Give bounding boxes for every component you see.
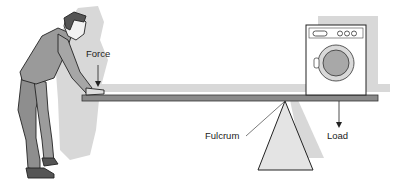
lever-illustration [0,0,400,189]
load-arrow-icon [336,101,342,128]
force-label: Force [86,48,110,59]
washing-machine-icon [306,25,366,95]
fulcrum-label: Fulcrum [205,130,239,141]
load-label: Load [327,130,348,141]
plank [82,95,378,101]
lever-diagram: Force Fulcrum Load [0,0,400,189]
